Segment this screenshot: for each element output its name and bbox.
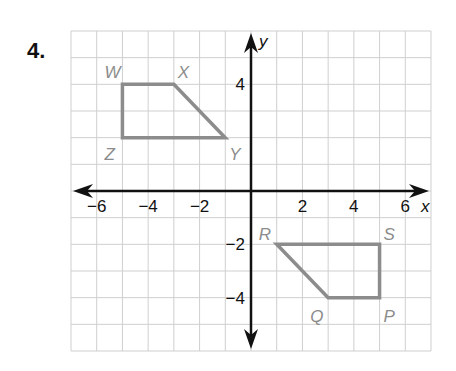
x-axis-label: x [420, 197, 430, 216]
coordinate-plane: −6−4−22464−2−4xyWXYZRSPQ [0, 0, 456, 371]
vertex-label-s: S [384, 225, 396, 244]
x-tick-label: 6 [401, 197, 410, 216]
vertex-label-w: W [104, 63, 122, 82]
x-tick-label: −2 [190, 197, 209, 216]
vertex-label-q: Q [310, 307, 323, 326]
x-tick-label: 2 [298, 197, 307, 216]
vertex-label-r: R [259, 225, 271, 244]
vertex-label-y: Y [229, 145, 242, 164]
y-axis-label: y [258, 32, 269, 51]
x-tick-label: −6 [87, 197, 106, 216]
vertex-label-z: Z [103, 145, 115, 164]
x-tick-label: 4 [349, 197, 358, 216]
x-tick-label: −4 [138, 197, 157, 216]
vertex-label-x: X [177, 63, 190, 82]
y-tick-label: −4 [226, 289, 245, 308]
y-tick-label: −2 [226, 235, 245, 254]
y-tick-label: 4 [236, 75, 245, 94]
vertex-label-p: P [384, 307, 396, 326]
